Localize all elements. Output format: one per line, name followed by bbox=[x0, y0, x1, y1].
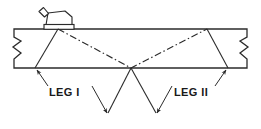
plate-outline bbox=[13, 29, 248, 68]
leg-2-upper-leader bbox=[215, 70, 226, 86]
extension-line-right bbox=[131, 68, 156, 113]
diagram-canvas: LEG I LEG II bbox=[0, 0, 261, 129]
transducer-housing bbox=[46, 11, 72, 25]
ut-leg-diagram: LEG I LEG II bbox=[0, 0, 261, 129]
leg-1-upper-leader bbox=[37, 70, 48, 86]
reflection-extension-lines bbox=[108, 68, 156, 113]
leg-1-label: LEG I bbox=[49, 86, 80, 98]
extension-line-left bbox=[108, 68, 131, 113]
transducer-wedge-shoe bbox=[44, 25, 74, 30]
leg-2-label: LEG II bbox=[174, 86, 208, 98]
angle-beam-transducer bbox=[39, 8, 74, 30]
leg-2-lower-leader bbox=[157, 86, 172, 113]
test-plate bbox=[13, 29, 248, 68]
leg-1-lower-leader bbox=[92, 86, 107, 113]
